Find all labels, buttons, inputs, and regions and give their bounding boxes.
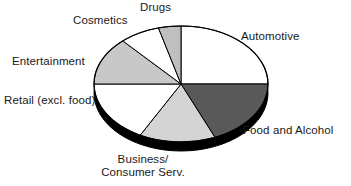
pie-label-business-line1: Business/ (88, 153, 198, 166)
pie-label-cosmetics: Cosmetics (73, 14, 128, 27)
pie-label-entertainment: Entertainment (12, 55, 85, 68)
pie-label-business-consumer-serv: Business/ Consumer Serv. (88, 153, 198, 179)
pie-label-retail-excl-food: Retail (excl. food) (4, 94, 95, 107)
pie-label-business-line2: Consumer Serv. (88, 166, 198, 179)
pie-chart-figure: Automotive Food and Alcohol Business/ Co… (0, 0, 351, 186)
pie-label-drugs: Drugs (140, 1, 171, 14)
pie-label-automotive: Automotive (241, 30, 300, 43)
pie-slices-group (94, 26, 268, 142)
pie-label-food-and-alcohol: Food and Alcohol (243, 124, 333, 137)
